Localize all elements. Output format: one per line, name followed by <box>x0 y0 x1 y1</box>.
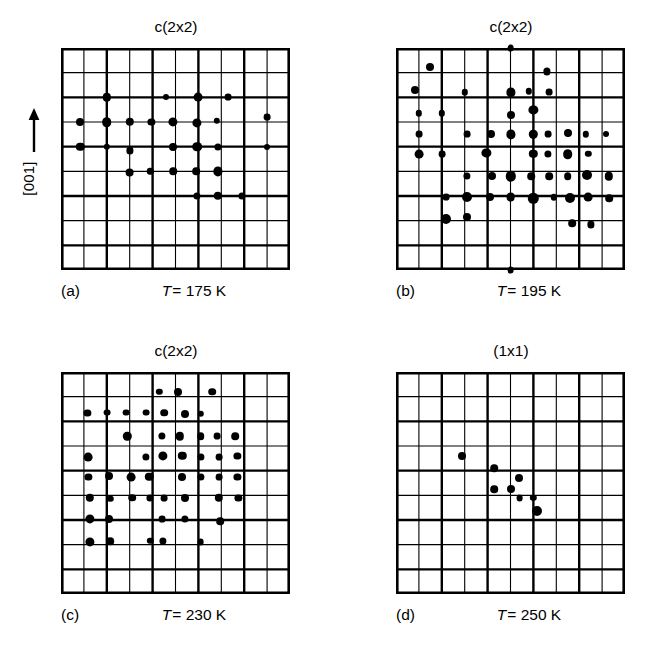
panel-d-caption: (d)T= 250 K <box>396 604 626 626</box>
diffraction-spot <box>264 144 270 150</box>
diffraction-spot <box>464 131 471 138</box>
diffraction-spot <box>192 142 202 152</box>
diffraction-spot <box>216 517 224 525</box>
diffraction-spot <box>605 195 613 203</box>
diffraction-spot <box>264 114 271 121</box>
diffraction-spot <box>106 537 114 545</box>
panel-c-temperature-symbol: T <box>162 606 172 623</box>
panel-d-temperature-value: = 250 K <box>507 606 561 623</box>
diffraction-spot <box>197 432 205 440</box>
axis-label-group: [001] <box>6 108 52 248</box>
panel-b-plot <box>396 48 625 270</box>
diffraction-spot <box>84 453 93 462</box>
diffraction-spot <box>216 454 223 461</box>
panel-a-caption: (a)T= 175 K <box>61 280 291 302</box>
diffraction-spot <box>507 267 514 274</box>
diffraction-spot <box>603 131 609 137</box>
diffraction-spot <box>563 149 573 159</box>
panel-d: (1x1)(d)T= 250 K <box>396 342 626 632</box>
diffraction-spot <box>142 409 149 416</box>
diffraction-spot <box>128 494 136 502</box>
diffraction-spot <box>569 219 577 227</box>
diffraction-spot <box>181 494 189 502</box>
diffraction-spot <box>545 131 552 138</box>
diffraction-spot <box>225 94 232 101</box>
panel-c: c(2x2)(c)T= 230 K <box>61 342 291 632</box>
diffraction-spot <box>161 494 168 501</box>
diffraction-spot <box>126 472 135 481</box>
diffraction-spot <box>546 89 553 96</box>
diffraction-spot <box>181 410 189 418</box>
diffraction-spot <box>163 94 169 100</box>
diffraction-spot <box>125 168 134 177</box>
diffraction-spot <box>441 214 451 224</box>
diffraction-spot <box>103 409 110 416</box>
diffraction-spot <box>197 539 204 546</box>
diffraction-spot <box>174 388 182 396</box>
diffraction-spot <box>76 118 84 126</box>
diffraction-spot <box>564 172 572 180</box>
diffraction-spot <box>565 193 575 203</box>
diffraction-spot <box>169 168 177 176</box>
panel-d-temperature-symbol: T <box>497 606 507 623</box>
panel-c-temperature: T= 230 K <box>61 604 291 626</box>
panel-a-temperature-symbol: T <box>162 282 172 299</box>
diffraction-spot <box>102 117 112 127</box>
lattice-grid <box>396 48 625 270</box>
diffraction-spot <box>506 193 515 202</box>
diffraction-spot <box>491 464 499 472</box>
diffraction-spot <box>160 409 168 417</box>
lattice-grid <box>396 372 625 594</box>
panel-b-caption: (b)T= 195 K <box>396 280 626 302</box>
diffraction-spot <box>488 172 496 180</box>
diffraction-spot <box>231 432 239 440</box>
diffraction-spot <box>426 63 434 71</box>
diffraction-spot <box>169 143 177 151</box>
diffraction-spot <box>491 485 499 493</box>
diffraction-spot <box>105 472 113 480</box>
diffraction-spot <box>158 515 165 522</box>
diffraction-spot <box>515 474 523 482</box>
diffraction-spot <box>438 151 445 158</box>
panel-c-caption: (c)T= 230 K <box>61 604 291 626</box>
diffraction-spot <box>415 131 422 138</box>
axis-direction-label: [001] <box>20 129 37 229</box>
diffraction-spot <box>507 485 515 493</box>
diffraction-spot <box>507 111 515 119</box>
diffraction-spot <box>507 45 514 52</box>
diffraction-spot <box>532 506 542 516</box>
diffraction-spot <box>411 86 419 94</box>
diffraction-spot <box>458 452 466 460</box>
panel-d-title: (1x1) <box>396 342 626 360</box>
figure-root: [001] c(2x2)(a)T= 175 Kc(2x2)(b)T= 195 K… <box>0 0 672 648</box>
diffraction-spot <box>527 172 535 180</box>
diffraction-spot <box>584 193 593 202</box>
panel-b-temperature-value: = 195 K <box>507 282 561 299</box>
diffraction-spot <box>105 515 113 523</box>
diffraction-spot <box>487 130 495 138</box>
lattice-grid <box>61 48 290 270</box>
diffraction-spot <box>516 494 523 501</box>
panel-b-temperature-symbol: T <box>497 282 507 299</box>
panel-a-temperature-value: = 175 K <box>172 282 226 299</box>
diffraction-spot <box>486 193 494 201</box>
diffraction-spot <box>414 150 423 159</box>
diffraction-spot <box>194 93 203 102</box>
diffraction-spot <box>564 129 572 137</box>
diffraction-spot <box>463 213 471 221</box>
panel-b-temperature: T= 195 K <box>396 280 626 302</box>
diffraction-spot <box>546 172 554 180</box>
panel-d-temperature: T= 250 K <box>396 604 626 626</box>
lattice-grid <box>61 372 290 594</box>
diffraction-spot <box>443 194 450 201</box>
panel-a-plot <box>61 48 290 270</box>
diffraction-spot <box>216 473 223 480</box>
diffraction-spot <box>123 409 130 416</box>
panel-d-plot <box>396 372 625 594</box>
panel-c-title: c(2x2) <box>61 342 291 360</box>
diffraction-spot <box>462 192 472 202</box>
panel-b-title: c(2x2) <box>396 18 626 36</box>
diffraction-spot <box>582 170 592 180</box>
diffraction-spot <box>192 168 200 176</box>
diffraction-spot <box>178 473 186 481</box>
